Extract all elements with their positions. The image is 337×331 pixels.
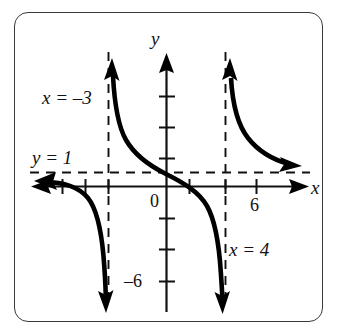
right-branch-curve xyxy=(231,78,289,164)
y-axis-top-arrowhead xyxy=(159,53,174,73)
x-axis-label: x xyxy=(311,178,319,197)
right-branch-up-arrowhead xyxy=(222,58,238,81)
y-tick-label-neg6: –6 xyxy=(124,272,142,290)
horizontal-asymptote-label: y = 1 xyxy=(32,148,72,167)
origin-label: 0 xyxy=(150,192,159,210)
y-axis-label: y xyxy=(151,29,159,48)
vertical-asymptote-right-label: x = 4 xyxy=(229,240,269,259)
vertical-asymptote-left-label: x = –3 xyxy=(42,88,92,107)
x-tick-label-6: 6 xyxy=(250,196,259,214)
figure-container: y x 0 6 –6 x = –3 y = 1 x = 4 xyxy=(0,0,337,331)
x-axis-right-arrowhead xyxy=(289,179,309,194)
left-branch-curve xyxy=(44,182,106,297)
right-branch-right-arrowhead xyxy=(279,157,302,172)
